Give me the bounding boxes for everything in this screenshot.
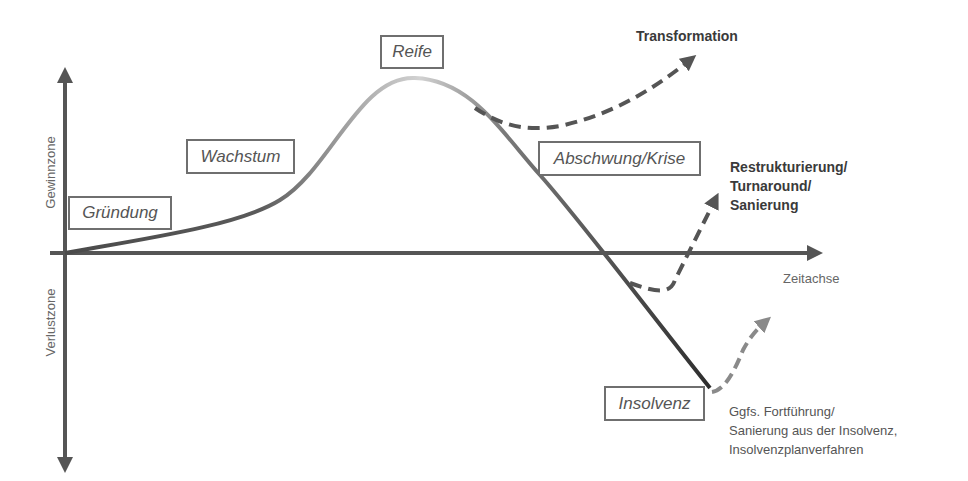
- phase-wachstum: Wachstum: [186, 139, 295, 174]
- insolvency-note-line-2: Sanierung aus der Insolvenz,: [729, 421, 897, 440]
- insolvency-continuation-path: [712, 322, 765, 392]
- phase-insolvenz: Insolvenz: [604, 386, 705, 421]
- outcome-insolvency-continuation: Ggfs. Fortführung/ Sanierung aus der Ins…: [729, 402, 897, 459]
- phase-gruendung: Gründung: [68, 196, 172, 230]
- verlustzone-label: Verlustzone: [43, 283, 58, 363]
- transformation-path: [475, 60, 690, 128]
- restructuring-line-3: Sanierung: [730, 196, 847, 215]
- outcome-restructuring: Restrukturierung/ Turnaround/ Sanierung: [730, 158, 847, 215]
- restructuring-line-2: Turnaround/: [730, 177, 847, 196]
- outcome-transformation: Transformation: [636, 27, 738, 46]
- gewinnzone-label: Gewinnzone: [43, 133, 58, 213]
- phase-reife: Reife: [380, 35, 444, 69]
- insolvency-note-line-3: Insolvenzplanverfahren: [729, 440, 897, 459]
- phase-abschwung: Abschwung/Krise: [538, 141, 701, 176]
- restructuring-line-1: Restrukturierung/: [730, 158, 847, 177]
- restructuring-path: [630, 200, 715, 291]
- insolvency-note-line-1: Ggfs. Fortführung/: [729, 402, 897, 421]
- lifecycle-curve: [65, 78, 710, 388]
- zeitachse-label: Zeitachse: [783, 271, 839, 286]
